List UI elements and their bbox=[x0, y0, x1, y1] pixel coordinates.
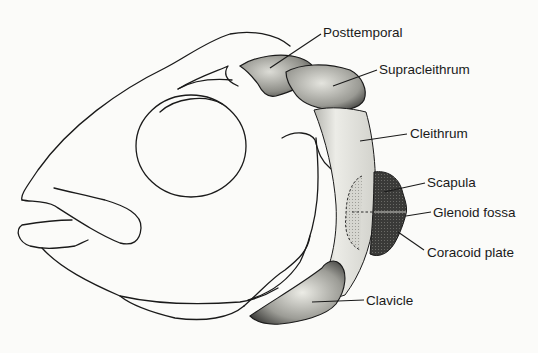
supracleithrum-bone bbox=[286, 65, 365, 111]
label-glenoid-fossa: Glenoid fossa bbox=[433, 206, 516, 220]
label-supracleithrum: Supracleithrum bbox=[379, 63, 470, 77]
label-clavicle: Clavicle bbox=[366, 294, 413, 308]
label-coracoid-plate: Coracoid plate bbox=[427, 246, 514, 260]
label-cleithrum: Cleithrum bbox=[410, 127, 468, 141]
scapula-coracoid-bone bbox=[370, 172, 407, 256]
leader-coracoid-plate bbox=[398, 232, 424, 250]
leader-glenoid-fossa bbox=[406, 212, 431, 216]
diagram-canvas: Posttemporal Supracleithrum Cleithrum Sc… bbox=[0, 0, 538, 353]
label-posttemporal: Posttemporal bbox=[323, 26, 403, 40]
label-scapula: Scapula bbox=[427, 176, 476, 190]
clavicle-bone bbox=[250, 261, 345, 324]
